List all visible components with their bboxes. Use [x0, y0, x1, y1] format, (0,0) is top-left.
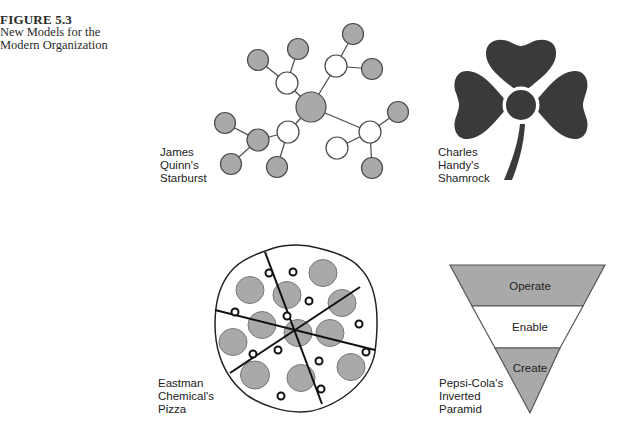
gray-node	[248, 50, 269, 71]
gray-node	[388, 102, 409, 123]
white-node	[276, 72, 298, 94]
gray-node	[215, 113, 236, 134]
label-line: Pepsi-Cola's	[439, 377, 503, 390]
label-line: Quinn's	[160, 159, 207, 172]
tier-label-operate: Operate	[509, 280, 551, 292]
gray-node	[221, 154, 242, 175]
label-line: Shamrock	[438, 172, 490, 185]
pyramid-tier-create	[495, 348, 560, 413]
gray-node	[362, 158, 383, 179]
hub-node	[296, 92, 326, 122]
white-node	[277, 121, 299, 143]
gray-node	[343, 24, 364, 45]
shamrock-label: Charles Handy's Shamrock	[438, 146, 490, 185]
label-line: Chemical's	[158, 390, 214, 403]
diagram-canvas: Operate Enable Create	[0, 0, 627, 429]
label-line: Inverted	[439, 390, 503, 403]
white-node	[359, 121, 381, 143]
pizza-label: Eastman Chemical's Pizza	[158, 377, 214, 416]
white-node	[325, 55, 347, 77]
label-line: Pizza	[158, 403, 214, 416]
tier-label-enable: Enable	[512, 321, 548, 333]
starburst-label: James Quinn's Starburst	[160, 146, 207, 185]
label-line: Eastman	[158, 377, 214, 390]
shamrock-leaf-left	[455, 71, 511, 139]
shamrock-stem	[504, 124, 525, 180]
starburst-nodes	[215, 24, 409, 179]
white-node	[326, 137, 348, 159]
pyramid-label: Pepsi-Cola's Inverted Paramid	[439, 377, 503, 416]
label-line: James	[160, 146, 207, 159]
label-line: Charles	[438, 146, 490, 159]
gray-node	[362, 59, 383, 80]
tier-label-create: Create	[513, 362, 548, 374]
gray-node	[247, 129, 269, 151]
label-line: Paramid	[439, 403, 503, 416]
label-line: Handy's	[438, 159, 490, 172]
shamrock-leaf-right	[532, 71, 588, 139]
starburst-diagram	[215, 24, 409, 179]
pizza-diagram	[215, 245, 377, 412]
shamrock-center	[506, 90, 536, 120]
gray-node	[267, 157, 288, 178]
label-line: Starburst	[160, 172, 207, 185]
gray-node	[288, 39, 309, 60]
